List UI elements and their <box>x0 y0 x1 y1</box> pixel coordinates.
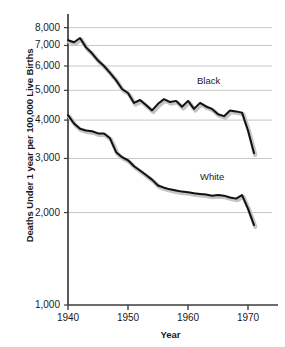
series-label-white: White <box>200 171 224 182</box>
y-tick-label: 1,000 <box>20 300 60 310</box>
series-white <box>68 115 255 227</box>
y-tick-label: 4,000 <box>20 115 60 125</box>
infant-mortality-chart: Deaths Under 1 year per 100,000 Live Bir… <box>0 0 285 347</box>
plot-area <box>0 0 285 347</box>
x-tick-label: 1940 <box>48 313 88 323</box>
series-black <box>68 38 255 155</box>
y-tick-label: 5,000 <box>20 85 60 95</box>
y-tick-label: 6,000 <box>20 61 60 71</box>
y-tick-label: 3,000 <box>20 153 60 163</box>
series-label-black: Black <box>197 75 220 86</box>
x-tick-label: 1970 <box>228 313 268 323</box>
x-tick-label: 1950 <box>108 313 148 323</box>
y-tick-label: 7,000 <box>20 40 60 50</box>
y-tick-label: 2,000 <box>20 208 60 218</box>
y-tick-label: 8,000 <box>20 23 60 33</box>
x-tick-label: 1960 <box>168 313 208 323</box>
